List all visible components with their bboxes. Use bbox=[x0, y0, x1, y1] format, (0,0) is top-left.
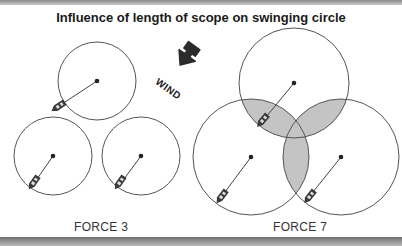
anchor-point-icon bbox=[51, 154, 56, 159]
force3-group bbox=[14, 42, 180, 195]
anchor-point-icon bbox=[139, 154, 144, 159]
boat-icon bbox=[26, 174, 40, 191]
boat-icon bbox=[50, 99, 67, 113]
bottom-border-bar bbox=[0, 237, 402, 246]
force7-label: FORCE 7 bbox=[273, 220, 327, 234]
anchor-point-icon bbox=[249, 155, 254, 160]
force7-anchors bbox=[214, 81, 343, 205]
boat-icon bbox=[302, 189, 317, 206]
anchor-point-icon bbox=[292, 81, 297, 86]
anchor-point-icon bbox=[339, 155, 344, 160]
force3-anchors bbox=[26, 79, 143, 192]
boat-icon bbox=[214, 188, 229, 205]
force3-label: FORCE 3 bbox=[74, 220, 128, 234]
swinging-circle-diagram bbox=[0, 0, 402, 246]
wind-direction-arrow-icon bbox=[172, 40, 202, 71]
anchor-point-icon bbox=[95, 79, 100, 84]
